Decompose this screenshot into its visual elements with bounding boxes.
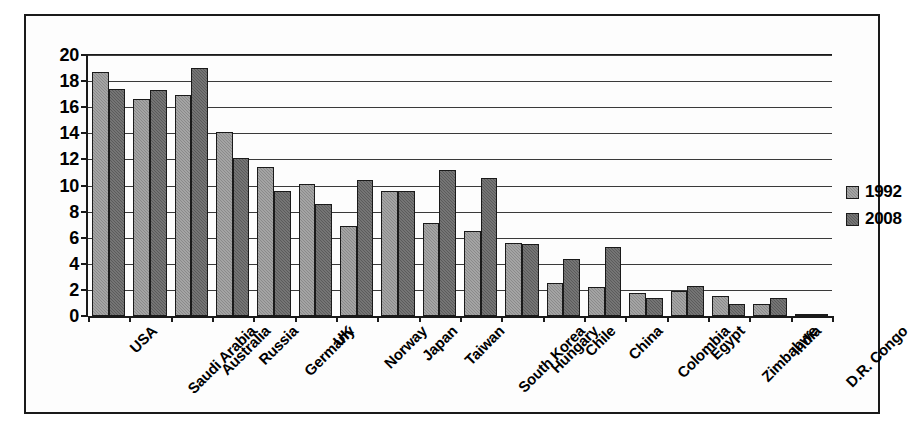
x-axis-labels: USASaudi ArabiaAustraliaRussiaGermanyUKN… xyxy=(86,322,832,418)
bar xyxy=(753,304,770,316)
bar-group xyxy=(588,55,621,316)
legend-swatch-2008-icon xyxy=(846,213,859,226)
bar-group xyxy=(133,55,166,316)
x-axis-label: China xyxy=(625,322,666,363)
x-tick-mark xyxy=(832,316,834,322)
y-tick-label: 8 xyxy=(69,201,79,222)
bar-group xyxy=(464,55,497,316)
y-tick-label: 14 xyxy=(60,123,79,144)
bar-group xyxy=(257,55,290,316)
y-tick-mark xyxy=(81,185,88,187)
bar xyxy=(522,244,539,316)
bar xyxy=(712,296,729,316)
bar xyxy=(481,178,498,316)
bar xyxy=(729,304,746,316)
bar xyxy=(381,191,398,316)
bar xyxy=(315,204,332,316)
y-tick-mark xyxy=(81,54,88,56)
bar xyxy=(274,191,291,316)
y-tick-label: 18 xyxy=(60,71,79,92)
x-axis-label: USA xyxy=(126,322,160,356)
legend-item-1992: 1992 xyxy=(846,184,908,200)
y-tick-label: 4 xyxy=(69,253,79,274)
y-tick-mark xyxy=(81,289,88,291)
bar xyxy=(547,283,564,316)
chart-legend: 1992 2008 xyxy=(846,184,908,238)
bar xyxy=(795,314,812,316)
bar-group xyxy=(423,55,456,316)
bar-group xyxy=(505,55,538,316)
bar xyxy=(505,243,522,316)
bar xyxy=(770,298,787,316)
bar xyxy=(92,72,109,316)
bar xyxy=(464,231,481,316)
y-tick-label: 16 xyxy=(60,97,79,118)
bar xyxy=(398,191,415,316)
bar xyxy=(588,287,605,316)
y-tick-mark xyxy=(81,315,88,317)
bar-group xyxy=(753,55,786,316)
bar xyxy=(191,68,208,316)
bar xyxy=(175,95,192,316)
bar-group xyxy=(216,55,249,316)
bars-layer xyxy=(88,55,832,316)
bar-group xyxy=(381,55,414,316)
bar xyxy=(340,226,357,316)
plot-area: 02468101214161820 xyxy=(86,54,832,316)
bar-group xyxy=(629,55,662,316)
bar xyxy=(687,286,704,316)
bar-group xyxy=(671,55,704,316)
bar xyxy=(150,90,167,316)
bar xyxy=(629,293,646,316)
bar xyxy=(811,314,828,316)
bar xyxy=(439,170,456,316)
y-tick-label: 6 xyxy=(69,227,79,248)
figure-border: 02468101214161820 USASaudi ArabiaAustral… xyxy=(24,14,880,414)
bar-group xyxy=(340,55,373,316)
bar xyxy=(563,259,580,316)
bar xyxy=(299,184,316,316)
legend-item-2008: 2008 xyxy=(846,211,908,227)
bar-group xyxy=(795,55,828,316)
bar xyxy=(257,167,274,316)
bar xyxy=(605,247,622,316)
legend-label-1992: 1992 xyxy=(865,182,902,202)
y-tick-mark xyxy=(81,106,88,108)
bar-group xyxy=(175,55,208,316)
bar xyxy=(109,89,126,316)
legend-label-2008: 2008 xyxy=(865,209,902,229)
y-tick-label: 0 xyxy=(69,306,79,327)
y-tick-label: 12 xyxy=(60,149,79,170)
y-tick-mark xyxy=(81,80,88,82)
x-axis-label: D.R. Congo xyxy=(843,322,908,390)
bar xyxy=(357,180,374,316)
chart-figure: 02468101214161820 USASaudi ArabiaAustral… xyxy=(0,0,908,431)
y-tick-mark xyxy=(81,237,88,239)
legend-swatch-1992-icon xyxy=(846,186,859,199)
bar xyxy=(423,223,440,316)
x-axis-label: Taiwan xyxy=(462,322,508,368)
y-tick-mark xyxy=(81,132,88,134)
y-tick-mark xyxy=(81,211,88,213)
bar xyxy=(233,158,250,316)
y-tick-label: 20 xyxy=(60,45,79,66)
y-tick-mark xyxy=(81,158,88,160)
bar xyxy=(646,298,663,316)
bar-group xyxy=(92,55,125,316)
bar xyxy=(671,291,688,316)
bar-group xyxy=(299,55,332,316)
y-tick-mark xyxy=(81,263,88,265)
y-tick-label: 2 xyxy=(69,279,79,300)
y-tick-label: 10 xyxy=(60,175,79,196)
bar xyxy=(133,99,150,316)
bar xyxy=(216,132,233,316)
bar-group xyxy=(547,55,580,316)
bar-group xyxy=(712,55,745,316)
